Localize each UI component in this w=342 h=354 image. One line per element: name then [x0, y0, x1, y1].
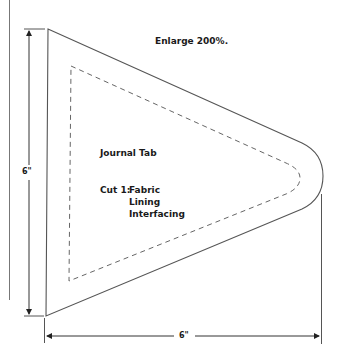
material-fabric: Fabric	[129, 186, 160, 195]
seam-line-dashed	[69, 66, 300, 281]
dimension-width-label: 6"	[176, 331, 192, 341]
material-lining: Lining	[129, 198, 160, 207]
pattern-drawing	[0, 0, 342, 354]
pattern-title: Journal Tab	[100, 149, 157, 158]
cut-line-outline	[46, 29, 323, 316]
enlarge-instruction: Enlarge 200%.	[155, 37, 228, 46]
material-interfacing: Interfacing	[129, 210, 185, 219]
dimension-height-label: 6"	[21, 167, 33, 177]
cut-label: Cut 1:	[100, 186, 130, 195]
